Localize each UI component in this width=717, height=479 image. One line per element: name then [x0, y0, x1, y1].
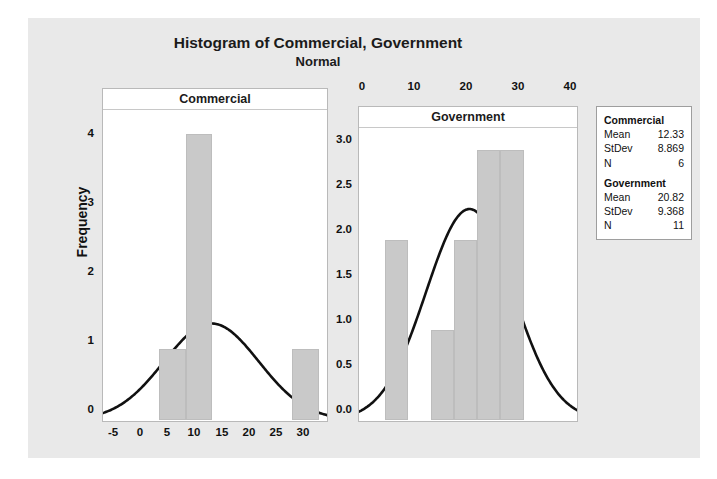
stats-key: StDev [604, 141, 639, 155]
plot-area-commercial [103, 109, 327, 420]
y-tick-right: 2.5 [320, 178, 352, 190]
stats-key: N [604, 218, 618, 232]
stats-value: 11 [673, 218, 684, 232]
histogram-bar [477, 150, 500, 420]
stats-group-commercial: Commercial Mean 12.33 StDev 8.869 N 6 [604, 113, 684, 170]
stats-value: 20.82 [658, 190, 684, 204]
histogram-bar [385, 240, 408, 420]
stats-row: N 6 [604, 156, 684, 170]
histogram-bar [454, 240, 477, 420]
y-tick-right: 1.0 [320, 313, 352, 325]
stats-value: 12.33 [658, 127, 684, 141]
y-tick-right: 3.0 [320, 133, 352, 145]
y-tick-right: 0.5 [320, 358, 352, 370]
panel-government-title: Government [359, 107, 577, 128]
figure-canvas: Histogram of Commercial, Government Norm… [28, 18, 700, 458]
x-tick-left: 30 [292, 426, 314, 438]
chart-title: Histogram of Commercial, Government [28, 34, 608, 52]
y-tick-left: 0 [68, 403, 94, 415]
stats-value: 6 [678, 156, 684, 170]
y-tick-right: 2.0 [320, 223, 352, 235]
stats-key: Mean [604, 190, 636, 204]
y-axis-label: Frequency [74, 162, 90, 282]
y-tick-right: 1.5 [320, 268, 352, 280]
x-tick-right: 40 [559, 80, 581, 92]
x-tick-left: 0 [129, 426, 151, 438]
stats-value: 8.869 [658, 141, 684, 155]
stats-row: N 11 [604, 218, 684, 232]
plot-area-government [359, 127, 577, 420]
y-tick-left: 3 [68, 196, 94, 208]
stats-value: 9.368 [658, 204, 684, 218]
scan-text-remnant [0, 0, 717, 16]
stats-row: StDev 9.368 [604, 204, 684, 218]
histogram-bar [500, 150, 523, 420]
x-tick-left: 10 [183, 426, 205, 438]
stats-key: StDev [604, 204, 639, 218]
x-tick-right: 30 [507, 80, 529, 92]
x-tick-left: 25 [265, 426, 287, 438]
stats-row: Mean 20.82 [604, 190, 684, 204]
histogram-bar [292, 349, 319, 420]
histogram-bar [431, 330, 454, 420]
panel-commercial-title: Commercial [103, 89, 327, 110]
x-tick-left: -5 [102, 426, 124, 438]
x-tick-left: 5 [156, 426, 178, 438]
x-tick-right: 0 [351, 80, 373, 92]
stats-group-government: Government Mean 20.82 StDev 9.368 N 11 [604, 176, 684, 233]
stats-row: Mean 12.33 [604, 127, 684, 141]
stats-key: N [604, 156, 618, 170]
y-tick-left: 1 [68, 334, 94, 346]
chart-subtitle: Normal [28, 54, 608, 69]
x-tick-right: 10 [403, 80, 425, 92]
histogram-bar [159, 349, 186, 420]
x-tick-left: 15 [211, 426, 233, 438]
y-tick-left: 2 [68, 265, 94, 277]
panel-government: Government [358, 106, 578, 422]
histogram-bar [186, 134, 213, 420]
statistics-panel: Commercial Mean 12.33 StDev 8.869 N 6 Go… [596, 106, 692, 240]
y-tick-right: 0.0 [320, 403, 352, 415]
panel-commercial: Commercial [102, 88, 328, 422]
x-tick-right: 20 [455, 80, 477, 92]
stats-group-name: Government [604, 176, 684, 190]
stats-row: StDev 8.869 [604, 141, 684, 155]
stats-key: Mean [604, 127, 636, 141]
x-tick-left: 20 [238, 426, 260, 438]
y-tick-left: 4 [68, 127, 94, 139]
stats-group-name: Commercial [604, 113, 684, 127]
